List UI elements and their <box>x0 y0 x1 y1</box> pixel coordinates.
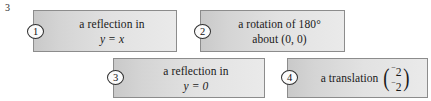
option-4-text: a translation ( −2 −2 ) <box>288 63 427 93</box>
option-4-marker[interactable]: 4 <box>281 70 298 85</box>
option-4-content: a translation ( −2 −2 ) <box>321 63 411 93</box>
vector-top-sign: − <box>391 63 396 72</box>
vector-top-entry: −2 <box>391 63 401 78</box>
vector-bottom-entry: −2 <box>391 78 401 93</box>
option-3-marker[interactable]: 3 <box>107 70 124 85</box>
vector-close-paren: ) <box>403 67 409 89</box>
worksheet-canvas: 3 a reflection in y = x 1 a rotation of … <box>0 0 431 101</box>
translation-vector: ( −2 −2 ) <box>382 63 410 93</box>
option-3-line1: a reflection in <box>128 64 264 79</box>
option-2-line1: a rotation of 180° <box>215 17 344 32</box>
option-box-1[interactable]: a reflection in y = x <box>33 10 177 52</box>
vector-values: −2 −2 <box>391 63 401 93</box>
option-2-marker[interactable]: 2 <box>194 24 211 39</box>
option-4-label: a translation <box>321 71 379 86</box>
option-1-text: a reflection in y = x <box>34 17 176 46</box>
option-2-text: a rotation of 180° about (0, 0) <box>201 17 344 46</box>
vector-top-value: 2 <box>396 66 402 78</box>
option-box-2[interactable]: a rotation of 180° about (0, 0) <box>200 10 345 52</box>
option-3-line2: y = 0 <box>128 78 264 93</box>
vector-bottom-value: 2 <box>396 81 402 93</box>
option-box-3[interactable]: a reflection in y = 0 <box>113 58 265 98</box>
question-number: 3 <box>5 2 10 14</box>
option-3-text: a reflection in y = 0 <box>114 64 264 93</box>
vector-bottom-sign: − <box>391 78 396 87</box>
vector-open-paren: ( <box>384 67 390 89</box>
option-box-4[interactable]: a translation ( −2 −2 ) <box>287 58 428 98</box>
option-1-line2: y = x <box>48 31 176 46</box>
option-1-marker[interactable]: 1 <box>27 24 44 39</box>
option-2-line2: about (0, 0) <box>215 31 344 46</box>
option-1-line1: a reflection in <box>48 17 176 32</box>
